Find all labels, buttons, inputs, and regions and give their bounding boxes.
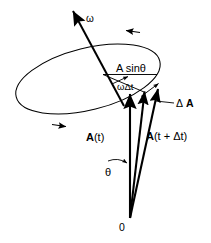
label-delta-A-prefix: Δ	[176, 97, 183, 109]
label-vector-A-of-t-arg: (t)	[94, 131, 104, 143]
vector-A-of-t	[130, 92, 145, 219]
label-theta: θ	[105, 167, 111, 178]
diagram-canvas	[0, 0, 211, 243]
label-a-sin-theta: A sinθ	[116, 63, 146, 74]
leader-line-delta-A	[156, 101, 174, 103]
vector-A-of-t-plus-delta-t	[130, 89, 158, 218]
ellipse-direction-arrow-bottom	[52, 125, 66, 127]
label-vector-A-of-t-plus-delta-t-arg: (t + Δt)	[154, 130, 187, 142]
ellipse-direction-arrow-top	[126, 31, 140, 33]
precession-circle	[9, 31, 168, 127]
label-delta-A: Δ A	[176, 98, 194, 109]
precession-circle-group	[9, 31, 168, 127]
label-vector-A-of-t-plus-delta-t-symbol: A	[146, 130, 154, 142]
angle-arc-theta	[108, 159, 127, 163]
label-omega-axis: ω	[86, 14, 94, 24]
label-vector-A-of-t-symbol: A	[86, 131, 94, 143]
label-delta-A-vector: A	[186, 97, 194, 109]
label-vector-A-of-t-plus-delta-t: A(t + Δt)	[146, 131, 187, 142]
label-origin: 0	[119, 222, 125, 233]
physics-diagram-vector-precession: ω A sinθ ωΔt Δ A A(t) A(t + Δt) θ 0	[0, 0, 211, 243]
label-omega-delta-t: ωΔt	[117, 82, 133, 92]
label-vector-A-of-t: A(t)	[86, 132, 104, 143]
